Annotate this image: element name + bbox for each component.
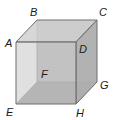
vertex-label-c: C <box>99 6 107 18</box>
vertex-label-a: A <box>4 37 12 49</box>
vertex-label-e: E <box>6 106 14 118</box>
vertex-label-g: G <box>100 79 109 91</box>
vertex-label-h: H <box>76 107 84 119</box>
vertex-label-d: D <box>79 43 87 55</box>
cube-diagram: B C A D F G E H <box>0 0 113 120</box>
vertex-label-b: B <box>30 6 37 18</box>
